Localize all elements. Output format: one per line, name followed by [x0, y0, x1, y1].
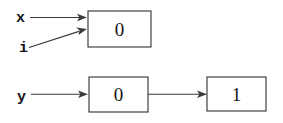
variable-label-x: x [16, 10, 25, 27]
edge-i-to-box-top-line [29, 31, 79, 47]
diagram-canvas: x i 0 y 0 [0, 0, 283, 123]
node-box-bottom-right: 1 [207, 77, 266, 111]
node-box-top-value: 0 [115, 19, 125, 40]
edge-i-to-box-top [29, 28, 87, 48]
variable-label-i: i [19, 40, 28, 57]
edge-x-to-box-top [30, 14, 87, 21]
pointer-diagram: x i 0 y 0 [0, 0, 283, 123]
node-box-bottom-left: 0 [89, 77, 148, 112]
node-box-bottom-right-value: 1 [232, 84, 242, 105]
edge-y-to-box-bottom-left [31, 91, 88, 98]
node-box-bottom-left-value: 0 [114, 84, 124, 105]
edge-box-bottom-left-to-right [148, 91, 207, 98]
variable-label-y: y [17, 89, 26, 106]
node-box-top: 0 [88, 11, 151, 47]
